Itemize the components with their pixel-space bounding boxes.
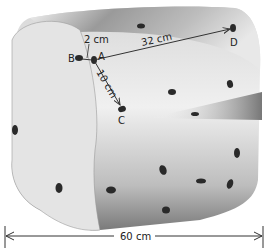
width-label-60cm: 60 cm	[120, 231, 151, 242]
point-label-B: B	[68, 53, 75, 64]
point-label-A: A	[98, 51, 105, 62]
loaf-body	[12, 6, 262, 230]
bread-diagram: B A C D 2 cm 10 cm 32 cm 60 cm	[0, 0, 266, 252]
raisin-D	[230, 24, 236, 32]
point-label-C: C	[118, 115, 125, 126]
measure-label-2cm: 2 cm	[84, 34, 109, 45]
point-label-D: D	[230, 37, 238, 48]
raisin-B	[75, 55, 83, 61]
